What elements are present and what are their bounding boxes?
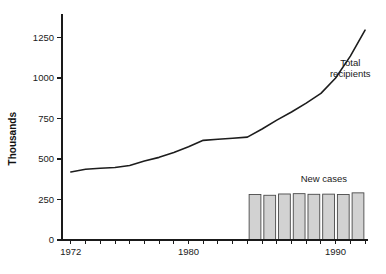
new-cases-label-text: New cases bbox=[301, 173, 348, 184]
y-tick-label-250: 250 bbox=[38, 194, 54, 205]
bar-1988 bbox=[308, 194, 320, 240]
x-tick-label-1980: 1980 bbox=[178, 246, 199, 257]
y-tick-label-1000: 1000 bbox=[33, 72, 54, 83]
bar-1985 bbox=[264, 195, 276, 240]
y-axis-title-text: Thousands bbox=[7, 112, 18, 166]
total-recipients-label-line1: Total bbox=[340, 57, 360, 68]
bar-1990 bbox=[337, 194, 349, 240]
bar-1991 bbox=[352, 193, 364, 240]
y-tick-label-500: 500 bbox=[38, 153, 54, 164]
y-tick-label-0: 0 bbox=[49, 234, 54, 245]
bar-1984 bbox=[249, 194, 261, 240]
y-tick-label-750: 750 bbox=[38, 113, 54, 124]
bar-1987 bbox=[293, 194, 305, 240]
bar-1989 bbox=[323, 194, 335, 240]
total-recipients-label-line2: recipients bbox=[330, 68, 371, 79]
y-tick-label-1250: 1250 bbox=[33, 32, 54, 43]
chart-figure: 025050075010001250197219801990Thousands … bbox=[0, 0, 386, 274]
x-tick-label-1972: 1972 bbox=[60, 246, 81, 257]
chart-canvas: 025050075010001250197219801990Thousands … bbox=[0, 0, 386, 274]
x-tick-label-1990: 1990 bbox=[325, 246, 346, 257]
bar-1986 bbox=[279, 194, 291, 240]
